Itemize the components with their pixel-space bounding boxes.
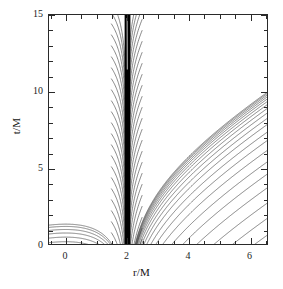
y-tick-minor-right — [264, 123, 268, 124]
y-tick-minor — [49, 61, 53, 62]
y-tick-minor — [49, 123, 53, 124]
x-tick-major-top — [66, 15, 67, 21]
y-tick-minor — [49, 30, 53, 31]
x-tick-major-top — [251, 15, 252, 21]
x-tick-minor-top — [235, 15, 236, 19]
x-axis-title: r/M — [0, 266, 283, 278]
null-geodesics-figure: 0246 051015 r/M t/M — [0, 0, 283, 289]
y-tick-minor — [49, 107, 53, 108]
x-tick-minor-top — [174, 15, 175, 19]
x-tick-minor — [158, 241, 159, 245]
x-tick-major-top — [127, 15, 128, 21]
y-tick-minor-right — [264, 231, 268, 232]
x-tick-minor-top — [204, 15, 205, 19]
y-tick-minor-right — [264, 138, 268, 139]
x-tick-minor — [143, 241, 144, 245]
y-tick-minor-right — [264, 77, 268, 78]
geodesic-curve — [151, 151, 267, 244]
geodesic-curve — [179, 188, 267, 244]
y-tick-minor-right — [264, 184, 268, 185]
x-tick-minor — [266, 241, 267, 245]
y-tick-major-right — [261, 92, 267, 93]
y-tick-minor — [49, 184, 53, 185]
plot-frame — [48, 14, 268, 245]
y-tick-minor — [49, 231, 53, 232]
geodesic-curve — [137, 119, 267, 244]
x-tick-label: 4 — [176, 251, 200, 261]
y-tick-minor-right — [264, 107, 268, 108]
y-tick-minor — [49, 200, 53, 201]
y-tick-minor-right — [264, 154, 268, 155]
y-tick-major — [49, 92, 55, 93]
geodesic-curve — [167, 174, 266, 244]
y-tick-minor-right — [264, 46, 268, 47]
geodesic-curve — [194, 203, 267, 244]
x-tick-minor-top — [158, 15, 159, 19]
geodesic-curve — [111, 211, 124, 244]
x-tick-minor-top — [81, 15, 82, 19]
y-tick-major — [49, 15, 55, 16]
geodesic-curve — [132, 93, 267, 244]
y-tick-minor-right — [264, 61, 268, 62]
x-tick-minor — [81, 241, 82, 245]
y-tick-label: 15 — [21, 9, 43, 19]
x-tick-label: 2 — [114, 251, 138, 261]
geodesic-curve — [49, 226, 118, 244]
x-tick-minor — [112, 241, 113, 245]
y-tick-major-right — [261, 15, 267, 16]
x-tick-minor-top — [220, 15, 221, 19]
geodesic-curve — [132, 94, 267, 244]
x-tick-major — [251, 238, 252, 244]
y-tick-minor — [49, 77, 53, 78]
x-tick-major — [127, 238, 128, 244]
x-tick-label: 6 — [238, 251, 262, 261]
geodesic-curve — [111, 200, 125, 244]
y-tick-minor-right — [264, 215, 268, 216]
x-tick-minor — [220, 241, 221, 245]
y-tick-minor-right — [264, 30, 268, 31]
x-tick-minor-top — [143, 15, 144, 19]
y-tick-label: 0 — [21, 240, 43, 250]
x-tick-minor-top — [112, 15, 113, 19]
x-tick-major — [189, 238, 190, 244]
x-tick-minor — [235, 241, 236, 245]
geodesic-curve — [134, 105, 267, 244]
y-tick-label: 5 — [21, 163, 43, 173]
x-tick-major — [66, 238, 67, 244]
x-tick-minor — [51, 241, 52, 245]
geodesic-curves — [49, 15, 267, 244]
y-axis-title: t/M — [10, 112, 22, 140]
y-tick-major — [49, 169, 55, 170]
geodesic-curve — [49, 224, 119, 244]
x-tick-minor — [204, 241, 205, 245]
x-tick-minor — [97, 241, 98, 245]
y-tick-major-right — [261, 169, 267, 170]
geodesic-curve — [231, 235, 267, 244]
x-tick-major-top — [189, 15, 190, 21]
y-tick-minor — [49, 46, 53, 47]
geodesic-curve — [132, 95, 267, 244]
y-tick-minor — [49, 138, 53, 139]
y-tick-minor — [49, 215, 53, 216]
y-tick-label: 10 — [21, 86, 43, 96]
y-tick-minor — [49, 154, 53, 155]
y-tick-minor-right — [264, 200, 268, 201]
x-tick-minor — [174, 241, 175, 245]
x-tick-label: 0 — [53, 251, 77, 261]
x-tick-minor-top — [97, 15, 98, 19]
